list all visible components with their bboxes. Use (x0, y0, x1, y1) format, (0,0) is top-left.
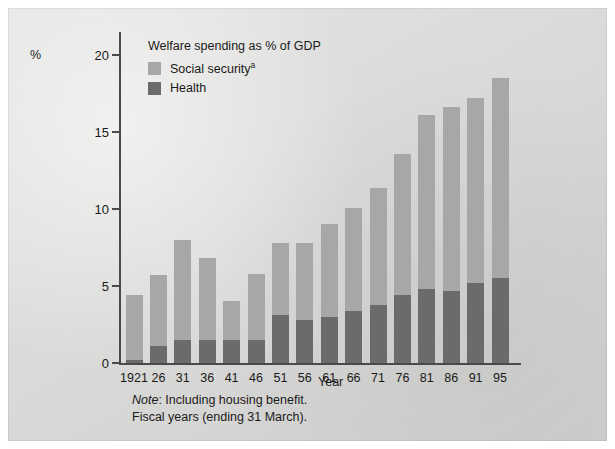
bar-segment-social-security (492, 78, 509, 278)
note-line-1: Note: Including housing benefit. (132, 392, 307, 409)
legend-item-label: Social securitya (170, 60, 255, 76)
y-axis-unit-label: % (30, 48, 41, 62)
x-axis-tick-label: 31 (176, 371, 190, 385)
x-axis-tick-label: 56 (298, 371, 312, 385)
x-axis-tick-label: 41 (225, 371, 239, 385)
bar-segment-health (394, 295, 411, 363)
bar-segment-health (199, 340, 216, 363)
bar-group (418, 115, 435, 363)
bar-segment-health (467, 283, 484, 363)
bar-segment-social-security (443, 107, 460, 290)
bar-group (272, 243, 289, 363)
bar-segment-social-security (272, 243, 289, 315)
legend-swatch-icon (148, 62, 161, 75)
bar-segment-social-security (126, 295, 143, 360)
bar-segment-social-security (248, 274, 265, 340)
x-axis-tick-label: 51 (273, 371, 287, 385)
x-axis-tick-label: 95 (493, 371, 507, 385)
x-axis-tick-label: 26 (151, 371, 165, 385)
legend-footnote-marker: a (251, 60, 256, 70)
bar-segment-social-security (199, 258, 216, 340)
bar-segment-health (174, 340, 191, 363)
y-axis-tick (112, 54, 119, 56)
bar-group (321, 224, 338, 363)
legend-item-social-security: Social securitya (148, 60, 321, 76)
bar-segment-health (321, 317, 338, 363)
y-axis-tick-label: 20 (95, 48, 109, 63)
x-axis-tick-label: 76 (395, 371, 409, 385)
bar-segment-health (126, 360, 143, 363)
figure-note: Note: Including housing benefit. Fiscal … (132, 392, 307, 425)
x-axis-line (119, 363, 521, 365)
note-line-1-text: : Including housing benefit. (158, 393, 307, 407)
y-axis-tick (112, 362, 119, 364)
x-axis-tick-label: 71 (371, 371, 385, 385)
bar-segment-health (150, 346, 167, 363)
bar-group (150, 275, 167, 363)
bar-segment-social-security (418, 115, 435, 289)
bar-segment-health (492, 278, 509, 363)
bar-group (248, 274, 265, 363)
bar-group (467, 98, 484, 363)
bar-segment-health (248, 340, 265, 363)
x-axis-tick-label: 91 (469, 371, 483, 385)
x-axis-tick-label: 46 (249, 371, 263, 385)
bar-segment-health (296, 320, 313, 363)
legend: Welfare spending as % of GDP Social secu… (148, 39, 321, 100)
bar-segment-social-security (296, 243, 313, 320)
legend-item-health: Health (148, 81, 321, 95)
x-axis-tick-label: 1921 (120, 371, 148, 385)
bar-segment-social-security (321, 224, 338, 316)
bar-segment-social-security (150, 275, 167, 346)
bar-group (174, 240, 191, 363)
bar-segment-health (370, 305, 387, 364)
bar-segment-social-security (394, 154, 411, 296)
x-axis-tick-label: 81 (420, 371, 434, 385)
bar-group (296, 243, 313, 363)
bar-group (199, 258, 216, 363)
y-axis-tick-label: 5 (102, 279, 109, 294)
bar-segment-social-security (223, 301, 240, 339)
bar-segment-health (443, 291, 460, 363)
y-axis-tick-label: 0 (102, 356, 109, 371)
bar-group (223, 301, 240, 363)
bar-group (443, 107, 460, 363)
bar-segment-social-security (467, 98, 484, 283)
bar-segment-social-security (174, 240, 191, 340)
legend-title: Welfare spending as % of GDP (148, 39, 321, 53)
bar-group (492, 78, 509, 363)
bar-segment-health (418, 289, 435, 363)
y-axis-tick (112, 285, 119, 287)
note-keyword: Note (132, 393, 158, 407)
x-axis-title: Year (318, 375, 343, 389)
bar-segment-health (223, 340, 240, 363)
bar-group (394, 154, 411, 363)
note-line-2: Fiscal years (ending 31 March). (132, 409, 307, 426)
bar-group (370, 188, 387, 364)
x-axis-tick-label: 86 (444, 371, 458, 385)
bar-segment-social-security (370, 188, 387, 305)
bar-group (126, 295, 143, 363)
legend-items: Social securityaHealth (148, 60, 321, 95)
bar-segment-health (345, 311, 362, 363)
y-axis-tick-label: 10 (95, 202, 109, 217)
y-axis-tick (112, 208, 119, 210)
x-axis-tick-label: 66 (347, 371, 361, 385)
bar-group (345, 208, 362, 363)
bar-segment-social-security (345, 208, 362, 311)
y-axis-tick (112, 131, 119, 133)
bar-segment-health (272, 315, 289, 363)
legend-item-label: Health (170, 81, 206, 95)
y-axis-tick-label: 15 (95, 125, 109, 140)
figure-panel: % 05101520 19212631364146515661667176818… (8, 8, 607, 441)
legend-swatch-icon (148, 82, 161, 95)
x-axis-tick-label: 36 (200, 371, 214, 385)
